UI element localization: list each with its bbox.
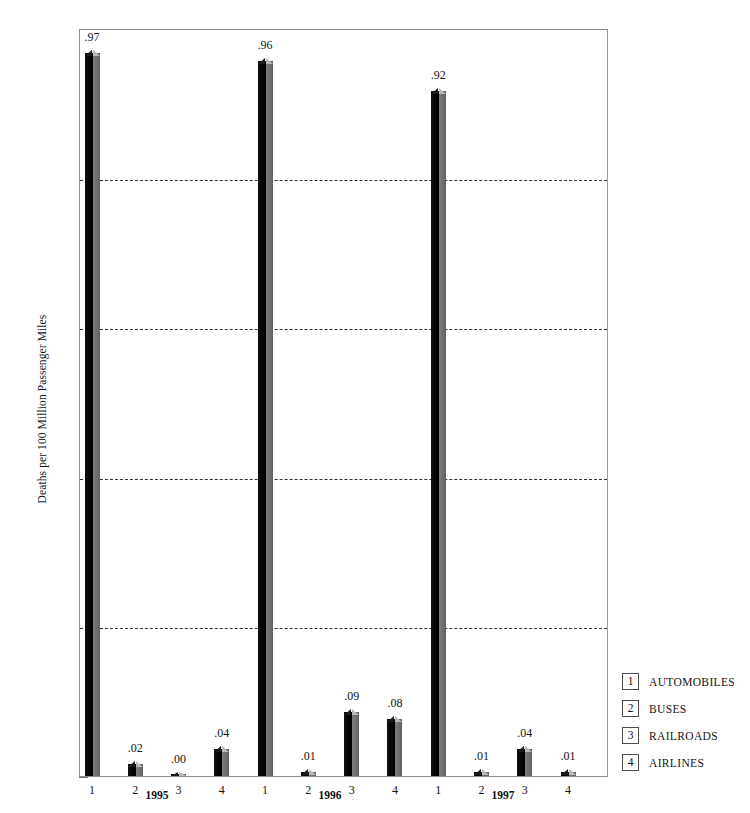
x-axis-bar-label: 4 — [556, 783, 580, 798]
bar-side-face — [352, 712, 359, 776]
legend-item[interactable]: 2BUSES — [622, 695, 748, 722]
bar-side-face — [395, 719, 402, 776]
bar-value-label: .01 — [561, 749, 576, 764]
bar[interactable] — [344, 709, 359, 776]
bar-value-label: .08 — [387, 696, 402, 711]
legend-key-box: 3 — [622, 727, 639, 744]
bar-value-label: .01 — [301, 749, 316, 764]
y-axis-tick-mark — [79, 777, 88, 778]
x-axis-group-label: 1997 — [473, 789, 533, 801]
bar[interactable] — [85, 50, 100, 776]
bar-value-label: .04 — [214, 726, 229, 741]
legend-item-label: RAILROADS — [649, 730, 718, 742]
legend: 1AUTOMOBILES2BUSES3RAILROADS4AIRLINES — [622, 668, 748, 776]
bar-value-label: .00 — [171, 752, 186, 767]
bar-value-label: .92 — [431, 68, 446, 83]
bar[interactable] — [214, 746, 229, 776]
bar[interactable] — [474, 769, 489, 776]
x-axis-bar-label: 4 — [383, 783, 407, 798]
bar-front-face — [344, 712, 352, 776]
bar[interactable] — [258, 58, 273, 776]
bar-front-face — [85, 53, 93, 776]
legend-key-box: 4 — [622, 754, 639, 771]
bar-top-face — [214, 746, 229, 752]
bar-front-face — [258, 61, 266, 776]
legend-item-label: AUTOMOBILES — [649, 676, 735, 688]
bar[interactable] — [128, 761, 143, 776]
bar-front-face — [387, 719, 395, 776]
bar-top-face — [344, 709, 359, 715]
gridline — [80, 628, 607, 629]
bar-front-face — [517, 749, 525, 776]
bar-top-face — [301, 769, 316, 775]
x-axis-bar-label: 1 — [426, 783, 450, 798]
gridline — [80, 329, 607, 330]
bar-top-face — [85, 50, 100, 56]
bar[interactable] — [301, 769, 316, 776]
bar[interactable] — [387, 716, 402, 776]
legend-key-box: 2 — [622, 700, 639, 717]
bar-top-face — [128, 761, 143, 767]
bar-top-face — [474, 769, 489, 775]
bar-top-face — [517, 746, 532, 752]
bar-value-label: .09 — [344, 689, 359, 704]
bar[interactable] — [171, 772, 186, 776]
x-axis-group-label: 1995 — [127, 789, 187, 801]
gridline — [80, 180, 607, 181]
legend-item-label: BUSES — [649, 703, 687, 715]
gridline — [80, 479, 607, 480]
bar-top-face — [431, 88, 446, 94]
bar[interactable] — [431, 88, 446, 776]
bar-top-face — [387, 716, 402, 722]
bar-front-face — [214, 749, 222, 776]
bar-value-label: .97 — [85, 30, 100, 45]
legend-item-label: AIRLINES — [649, 757, 704, 769]
bar-value-label: .96 — [258, 38, 273, 53]
legend-item[interactable]: 3RAILROADS — [622, 722, 748, 749]
legend-item[interactable]: 1AUTOMOBILES — [622, 668, 748, 695]
x-axis-group-label: 1996 — [300, 789, 360, 801]
bar-value-label: .02 — [128, 741, 143, 756]
bar[interactable] — [517, 746, 532, 776]
bar[interactable] — [561, 769, 576, 776]
legend-item[interactable]: 4AIRLINES — [622, 749, 748, 776]
bar-side-face — [439, 91, 446, 776]
bar-top-face — [258, 58, 273, 64]
bar-side-face — [266, 61, 273, 776]
y-axis-title: Deaths per 100 Million Passenger Miles — [36, 259, 48, 559]
bar-top-face — [171, 772, 186, 776]
legend-key-box: 1 — [622, 673, 639, 690]
bar-top-face — [561, 769, 576, 775]
plot-area: .97.02.00.04.96.01.09.08.92.01.04.01 — [79, 29, 608, 777]
bar-chart: Deaths per 100 Million Passenger Miles 1… — [0, 0, 750, 813]
bar-side-face — [93, 53, 100, 776]
x-axis-bar-label: 1 — [80, 783, 104, 798]
bar-side-face — [222, 749, 229, 776]
bar-front-face — [431, 91, 439, 776]
bar-side-face — [525, 749, 532, 776]
x-axis-bar-label: 1 — [253, 783, 277, 798]
bar-value-label: .01 — [474, 749, 489, 764]
x-axis-bar-label: 4 — [210, 783, 234, 798]
bar-value-label: .04 — [517, 726, 532, 741]
